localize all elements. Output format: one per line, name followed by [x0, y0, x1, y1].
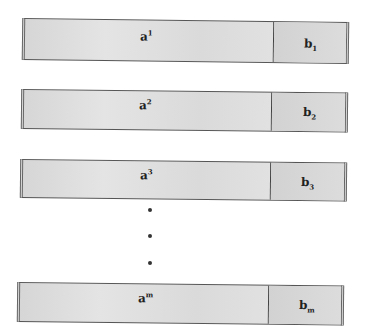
row-bar-1: a1 b1 [22, 18, 349, 64]
label-a-1: a1 [140, 28, 153, 43]
segment-a-m: am [20, 283, 269, 324]
label-b-1: b1 [304, 36, 317, 53]
segment-b-3: b3 [271, 163, 344, 201]
ellipsis-dot-3 [148, 261, 152, 265]
row-bar-m: am bm [17, 282, 344, 325]
row-bar-2: a2 b2 [21, 89, 348, 132]
segment-a-1: a1 [25, 19, 274, 62]
segment-b-m: bm [269, 286, 341, 325]
label-b-m: bm [299, 298, 315, 315]
label-b-2: b2 [303, 105, 316, 122]
segment-b-1: b1 [274, 22, 346, 63]
label-b-3: b3 [301, 175, 314, 192]
segment-b-2: b2 [272, 93, 345, 132]
segment-a-2: a2 [24, 90, 272, 131]
label-a-2: a2 [139, 97, 152, 112]
ellipsis-dot-1 [148, 208, 152, 212]
segment-a-3: a3 [23, 160, 271, 200]
row-bar-3: a3 b3 [20, 159, 347, 201]
ellipsis-dot-2 [148, 234, 152, 238]
label-a-3: a3 [140, 167, 153, 182]
label-a-m: am [138, 290, 153, 305]
